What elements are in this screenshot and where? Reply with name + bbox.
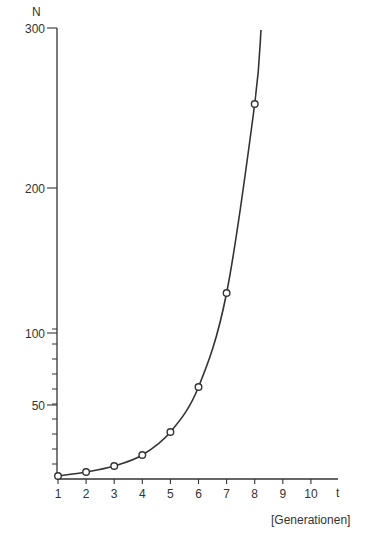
x-tick-label: 5 [167, 487, 174, 501]
y-tick-label: 100 [25, 327, 45, 341]
x-tick-label: 2 [83, 487, 90, 501]
data-point-marker [111, 463, 118, 470]
ticks [47, 28, 311, 484]
data-point-marker [251, 101, 258, 108]
x-axis-label: t [336, 486, 340, 500]
data-point-marker [223, 290, 230, 297]
y-tick-label: 50 [32, 399, 46, 413]
data-point-marker [139, 452, 146, 459]
exponential-growth-chart: 1234567891050100200300 N t [Generationen… [0, 0, 371, 544]
axes [57, 28, 338, 479]
data-point-marker [167, 429, 174, 436]
x-tick-label: 10 [304, 487, 318, 501]
x-tick-label: 4 [139, 487, 146, 501]
x-tick-label: 7 [223, 487, 230, 501]
y-tick-label: 300 [25, 22, 45, 36]
x-tick-label: 9 [279, 487, 286, 501]
data-point-marker [195, 384, 202, 391]
data-point-marker [55, 473, 62, 480]
x-axis-unit-label: [Generationen] [271, 513, 350, 527]
x-tick-label: 6 [195, 487, 202, 501]
y-tick-label: 200 [25, 182, 45, 196]
x-tick-label: 3 [111, 487, 118, 501]
x-tick-label: 8 [251, 487, 258, 501]
growth-curve [58, 30, 261, 476]
y-axis-label: N [32, 5, 41, 19]
data-points [55, 101, 258, 480]
x-tick-label: 1 [55, 487, 62, 501]
data-point-marker [83, 469, 90, 476]
